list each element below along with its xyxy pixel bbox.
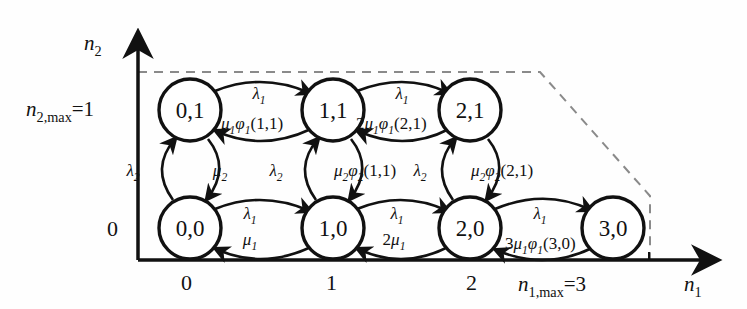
rate-label-01-to-00: μ2 xyxy=(212,161,228,184)
rate-label-10-to-00: μ1 xyxy=(242,230,257,253)
state-node-0-1[interactable]: 0,1 xyxy=(159,79,221,141)
arc-00-to-10 xyxy=(215,200,310,211)
rate-label-00-to-10: λ1 xyxy=(242,204,256,227)
arc-10-to-00 xyxy=(216,247,311,259)
x-axis-title: n1 xyxy=(684,272,702,300)
state-label: 2,1 xyxy=(456,98,485,123)
state-node-1-0[interactable]: 1,0 xyxy=(302,197,364,259)
y-tick-0: 0 xyxy=(107,216,118,241)
y-axis-max-label: n2,max=1 xyxy=(26,97,94,125)
x-tick-0: 0 xyxy=(181,270,192,295)
rate-label-20-to-30: λ1 xyxy=(532,204,546,227)
rate-label-20-to-10: 2μ1 xyxy=(383,230,406,253)
x-tick-1: 1 xyxy=(326,270,337,295)
x-axis-max-label: n1,max=3 xyxy=(518,272,586,300)
rate-label-11-to-21: λ1 xyxy=(394,84,408,107)
rate-label-10-to-11: λ2 xyxy=(268,161,282,184)
state-node-2-0[interactable]: 2,0 xyxy=(439,197,501,259)
arc-10-to-20 xyxy=(357,200,448,211)
state-transition-diagram: n2 n2,max=1 0 0 1 2 n1,max=3 n1 xyxy=(0,0,747,309)
arc-10-to-11 xyxy=(305,139,318,200)
state-label: 2,0 xyxy=(456,216,485,241)
y-axis-title: n2 xyxy=(84,31,102,59)
figure-canvas: n2 n2,max=1 0 0 1 2 n1,max=3 n1 xyxy=(0,0,747,309)
rate-label-30-to-20: 3μ1φ1(3,0) xyxy=(505,234,576,257)
rate-label-10-to-20: λ1 xyxy=(389,204,403,227)
rate-label-20-to-21: λ2 xyxy=(412,161,426,184)
state-label: 1,0 xyxy=(319,216,348,241)
arc-11-to-21 xyxy=(357,82,449,93)
rate-label-11-to-10: μ2φ2(1,1) xyxy=(333,161,396,184)
state-node-1-1[interactable]: 1,1 xyxy=(302,79,364,141)
x-tick-2: 2 xyxy=(466,270,477,295)
rate-label-21-to-20: μ2φ2(2,1) xyxy=(470,161,533,184)
state-node-2-1[interactable]: 2,1 xyxy=(439,79,501,141)
state-label: 3,0 xyxy=(599,216,628,241)
arc-00-to-01 xyxy=(162,139,175,200)
state-label: 0,0 xyxy=(176,216,205,241)
arc-01-to-11 xyxy=(215,82,310,93)
rate-label-11-to-01: μ1φ1(1,1) xyxy=(220,114,283,137)
arc-20-to-30 xyxy=(495,199,591,210)
state-label: 0,1 xyxy=(176,98,205,123)
rate-label-01-to-11: λ1 xyxy=(251,84,265,107)
state-label: 1,1 xyxy=(319,98,348,123)
state-node-3-0[interactable]: 3,0 xyxy=(582,197,644,259)
state-node-0-0[interactable]: 0,0 xyxy=(159,197,221,259)
arc-20-to-21 xyxy=(442,139,455,200)
